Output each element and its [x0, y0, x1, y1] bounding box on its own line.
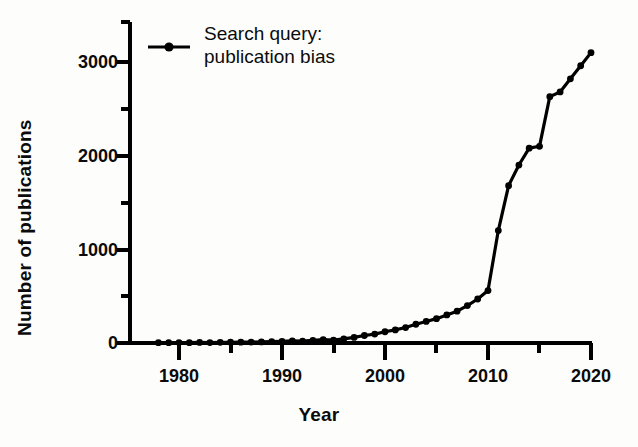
data-point — [196, 339, 203, 346]
y-tick-label-3000: 3000 — [60, 52, 118, 73]
data-point — [351, 334, 358, 341]
data-point — [588, 49, 595, 56]
data-point — [495, 227, 502, 234]
data-point — [279, 338, 286, 345]
data-point — [516, 162, 523, 169]
y-axis-ticks — [116, 22, 130, 343]
data-point — [217, 339, 224, 346]
x-axis-title: Year — [0, 404, 638, 426]
series-line — [158, 53, 591, 343]
x-tick-label-1990: 1990 — [262, 366, 302, 387]
data-point — [320, 336, 327, 343]
y-tick-label-2000: 2000 — [60, 146, 118, 167]
data-point — [361, 332, 368, 339]
data-point — [474, 296, 481, 303]
data-point — [413, 321, 420, 328]
data-point — [526, 145, 533, 152]
data-point — [546, 93, 553, 100]
data-point — [567, 75, 574, 82]
data-point — [186, 339, 193, 346]
data-point — [330, 337, 337, 344]
legend-label-line-1: Search query: — [204, 22, 322, 45]
x-tick-label-1980: 1980 — [159, 366, 199, 387]
legend-dot-marker — [164, 42, 173, 51]
data-point — [165, 339, 172, 346]
legend-marker — [148, 42, 190, 51]
data-point — [207, 339, 214, 346]
data-point — [392, 326, 399, 333]
data-point — [155, 339, 162, 346]
data-point — [454, 308, 461, 315]
series-markers — [155, 49, 594, 346]
data-point — [289, 338, 296, 345]
y-tick-label-1000: 1000 — [60, 240, 118, 261]
data-point — [423, 318, 430, 325]
data-point — [382, 328, 389, 335]
data-point — [176, 339, 183, 346]
data-point — [443, 312, 450, 319]
data-point — [464, 302, 471, 309]
data-point — [433, 315, 440, 322]
data-point — [310, 337, 317, 344]
data-point — [237, 339, 244, 346]
data-point — [577, 62, 584, 69]
data-point — [227, 339, 234, 346]
data-point — [258, 338, 265, 345]
data-point — [485, 287, 492, 294]
data-point — [371, 331, 378, 338]
data-point — [299, 338, 306, 345]
data-point — [505, 182, 512, 189]
legend-label-line-2: publication bias — [204, 45, 335, 68]
data-point — [248, 339, 255, 346]
axis-spines — [130, 22, 592, 343]
data-point — [340, 335, 347, 342]
x-tick-label-2010: 2010 — [468, 366, 508, 387]
data-point — [402, 324, 409, 331]
x-tick-label-2000: 2000 — [365, 366, 405, 387]
data-series-publication-bias — [155, 49, 594, 346]
chart-figure: 0 1000 2000 3000 1980 1990 2000 2010 202… — [0, 0, 638, 447]
data-point — [268, 338, 275, 345]
data-point — [536, 143, 543, 150]
y-tick-label-0: 0 — [60, 333, 118, 354]
x-tick-label-2020: 2020 — [571, 366, 611, 387]
y-axis-title: Number of publications — [14, 119, 36, 336]
data-point — [557, 89, 564, 96]
